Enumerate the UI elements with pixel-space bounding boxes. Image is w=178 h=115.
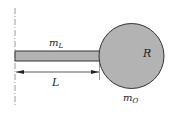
physics-diagram: mL L R mO	[0, 0, 178, 115]
arrowhead-left-icon	[16, 70, 24, 74]
arrowhead-right-icon	[91, 70, 99, 74]
disk	[99, 24, 164, 89]
rod	[15, 51, 101, 61]
length-label: L	[51, 76, 59, 89]
disk-mass-label: mO	[123, 92, 138, 105]
rod-mass-label: mL	[49, 37, 63, 50]
radius-label: R	[142, 47, 151, 60]
